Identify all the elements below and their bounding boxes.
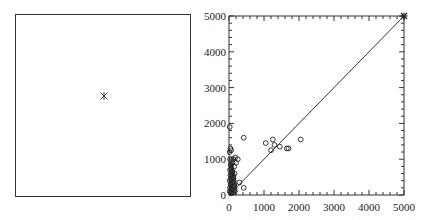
- data-point: [227, 125, 232, 130]
- data-point: [241, 185, 246, 190]
- x-tick-label: 4000: [358, 201, 381, 213]
- scatter-chart: 0100020003000400050000100020003000400050…: [0, 0, 424, 220]
- data-point: [241, 135, 246, 140]
- y-tick-label: 3000: [204, 82, 227, 94]
- x-tick-label: 5000: [393, 201, 416, 213]
- y-tick-label: 1000: [204, 153, 227, 165]
- asterisk-marker-icon: [401, 13, 408, 20]
- y-tick-label: 2000: [204, 117, 227, 129]
- data-point: [263, 141, 268, 146]
- data-point: [270, 137, 275, 142]
- y-tick-label: 0: [221, 189, 227, 201]
- x-tick-label: 0: [226, 201, 232, 213]
- identity-line: [229, 16, 404, 195]
- x-tick-label: 3000: [323, 201, 346, 213]
- x-tick-label: 2000: [288, 201, 311, 213]
- data-point: [277, 144, 282, 149]
- x-tick-label: 1000: [253, 201, 276, 213]
- y-tick-label: 4000: [204, 46, 227, 58]
- data-point: [298, 137, 303, 142]
- y-tick-label: 5000: [204, 10, 227, 22]
- data-point: [272, 142, 277, 147]
